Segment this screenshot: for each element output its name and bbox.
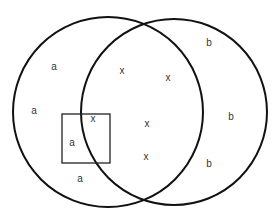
region-label-b: b <box>206 37 212 48</box>
region-label-a: a <box>51 61 57 72</box>
region-label-x: x <box>91 113 96 124</box>
region-label-b: b <box>228 111 234 122</box>
region-label-x: x <box>144 151 149 162</box>
region-label-x: x <box>120 65 125 76</box>
region-label-x: x <box>166 72 171 83</box>
region-label-a: a <box>77 173 83 184</box>
region-label-b: b <box>206 158 212 169</box>
venn-diagram: aaaaxxxxxbbb <box>0 0 279 217</box>
circle-b <box>81 19 267 205</box>
region-label-a: a <box>31 105 37 116</box>
region-label-x: x <box>145 118 150 129</box>
region-label-a: a <box>69 137 75 148</box>
